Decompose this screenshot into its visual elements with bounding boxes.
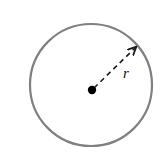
- figure-canvas: r: [0, 0, 167, 165]
- circle-radius-figure: r: [0, 0, 167, 165]
- center-dot: [88, 86, 96, 94]
- radius-label: r: [123, 65, 129, 81]
